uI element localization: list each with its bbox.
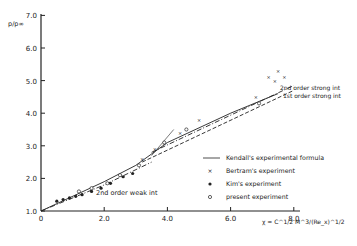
open-circle-marker [90, 187, 93, 190]
open-circle-marker [257, 102, 260, 105]
x-marker: × [140, 156, 144, 162]
open-circle-marker [137, 164, 140, 167]
y-tick-label: 5.0 [26, 78, 37, 86]
labels: 2nd order strong int1st order strong int… [96, 84, 342, 197]
x-tick-label: 6.0 [225, 215, 236, 223]
filled-circle-marker [55, 200, 58, 203]
legend-x-icon: × [207, 167, 212, 174]
annotation-2nd-order-weak: 2nd order weak int [96, 189, 158, 197]
filled-circle-marker [68, 196, 71, 199]
open-circle-marker [118, 174, 121, 177]
open-circle-marker [163, 141, 166, 144]
legend: Kendall's experimental formula×Bertram's… [203, 154, 324, 201]
x-marker: × [153, 146, 157, 152]
curve-1st-order-strong-int [142, 90, 294, 162]
y-tick-label: 2.0 [26, 175, 37, 183]
x-marker: × [197, 117, 201, 123]
filled-circle-marker [109, 182, 112, 185]
legend-filled-circle-icon [208, 182, 211, 185]
filled-circle-marker [131, 172, 134, 175]
open-circle-marker [77, 190, 80, 193]
x-tick-label: 0 [39, 215, 43, 223]
x-marker: × [266, 74, 270, 80]
filled-circle-marker [122, 175, 125, 178]
filled-circle-marker [90, 190, 93, 193]
legend-label: Bertram's experiment [226, 167, 296, 175]
y-tick-label: 3.0 [26, 143, 37, 151]
y-tick-label: 4.0 [26, 110, 37, 118]
legend-label: present experiment [226, 193, 289, 201]
x-tick-label: 4.0 [162, 215, 173, 223]
legend-open-circle-icon [208, 195, 211, 198]
chart: 1.02.03.04.05.06.07.002.04.06.08.0p/p∞χ … [0, 0, 357, 246]
x-marker: × [254, 94, 258, 100]
y-tick-label: 1.0 [26, 208, 37, 216]
x-marker: × [273, 78, 277, 84]
x-marker: × [282, 74, 286, 80]
curve-2nd-order-strong-int [152, 85, 294, 152]
open-circle-marker [106, 182, 109, 185]
open-circle-marker [185, 128, 188, 131]
legend-label: Kim's experiment [226, 180, 282, 188]
legend-label: Kendall's experimental formula [226, 154, 324, 162]
filled-circle-marker [80, 193, 83, 196]
y-axis-label: p/p∞ [8, 20, 24, 28]
x-tick-label: 2.0 [99, 215, 110, 223]
y-tick-label: 7.0 [26, 12, 37, 20]
filled-circle-marker [62, 198, 65, 201]
x-axis-label: χ = C^1/2 M^3/(Re_x)^1/2 [262, 218, 345, 226]
annotation-1st-order-strong: 1st order strong int [283, 92, 342, 100]
axes: 1.02.03.04.05.06.07.002.04.06.08.0p/p∞χ … [8, 12, 345, 226]
x-marker: × [178, 130, 182, 136]
filled-circle-marker [74, 195, 77, 198]
annotation-2nd-order-strong: 2nd order strong int [280, 84, 341, 92]
x-marker: × [276, 68, 280, 74]
y-tick-label: 6.0 [26, 45, 37, 53]
